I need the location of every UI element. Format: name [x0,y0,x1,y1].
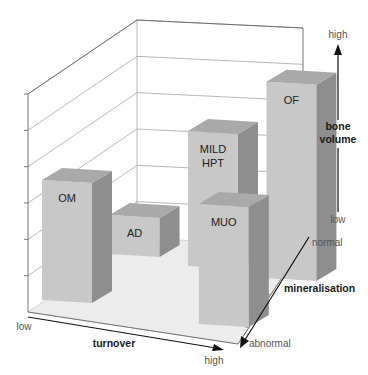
y-axis-low-label: low [330,214,346,225]
bar-om: OM [42,168,112,303]
bar-muo: MUO [199,192,269,327]
bar-ad: AD [110,203,180,257]
x-axis-high-label: high [205,355,224,366]
bar-label: AD [127,227,142,239]
bar-label: OM [58,192,76,204]
y-axis-arrowhead-icon [334,44,342,55]
left-wall-gridline [28,56,137,130]
z-axis-arrowhead-icon [240,336,249,348]
x-axis-arrowhead-icon [212,344,224,351]
back-wall-gridline [137,56,303,64]
z-axis-title: mineralisation [284,282,355,294]
back-wall-top-edge [137,20,303,28]
z-axis-far-label: normal [312,237,343,248]
x-axis-low-label: low [16,321,32,332]
bar-label: HPT [202,157,224,169]
y-axis-title-line2: volume [320,133,357,145]
left-wall-gridline [28,93,137,167]
bar-side-face [316,73,336,281]
bone-disease-3d-chart: ADMILDHPTOFOMMUO high bone volume low no… [0,0,368,375]
bar-front-face [266,82,316,281]
left-wall-top-edge [28,20,137,94]
bar-label: MUO [211,216,237,228]
bar-side-face [92,171,112,303]
y-axis-title-line1: bone [325,120,350,132]
z-axis-near-label: abnormal [249,338,291,349]
bar-label: MILD [200,143,226,155]
bar-label: OF [284,94,300,106]
y-axis-high-label: high [329,29,348,40]
x-axis-title: turnover [93,337,136,349]
